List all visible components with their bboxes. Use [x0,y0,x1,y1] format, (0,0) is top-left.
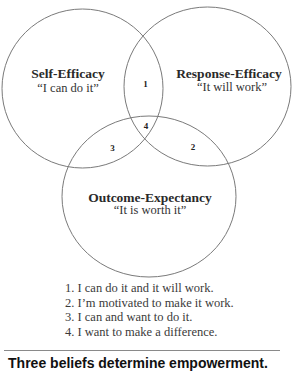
outcome-expectancy-quote: “It is worth it” [114,203,187,217]
figure-caption: Three beliefs determine empowerment. [0,355,276,371]
self-efficacy-quote: “I can do it” [37,81,98,95]
legend-item: 3. I can and want to do it. [65,310,234,325]
region-4-label: 4 [144,121,149,131]
region-1-label: 1 [143,79,148,89]
legend-item: 1. I can do it and it will work. [65,281,234,296]
region-2-label: 2 [191,142,196,152]
response-efficacy-title: Response-Efficacy [176,66,282,81]
region-3-label: 3 [110,143,115,153]
divider [4,350,280,351]
response-efficacy-quote: “It will work” [197,80,267,94]
venn-diagram: Self-Efficacy “I can do it” Response-Eff… [0,0,294,300]
self-efficacy-title: Self-Efficacy [31,66,105,81]
legend-item: 2. I’m motivated to make it work. [65,296,234,311]
region-legend: 1. I can do it and it will work. 2. I’m … [65,281,234,339]
legend-item: 4. I want to make a difference. [65,325,234,340]
